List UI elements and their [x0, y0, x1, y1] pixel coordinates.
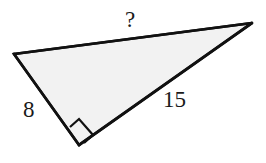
unknown-side-label: ? — [125, 8, 135, 31]
triangle-shape — [14, 23, 252, 145]
leg-length-label-8: 8 — [23, 98, 35, 121]
leg-length-label-15: 15 — [163, 88, 186, 111]
triangle-figure: ? 8 15 — [0, 0, 266, 163]
